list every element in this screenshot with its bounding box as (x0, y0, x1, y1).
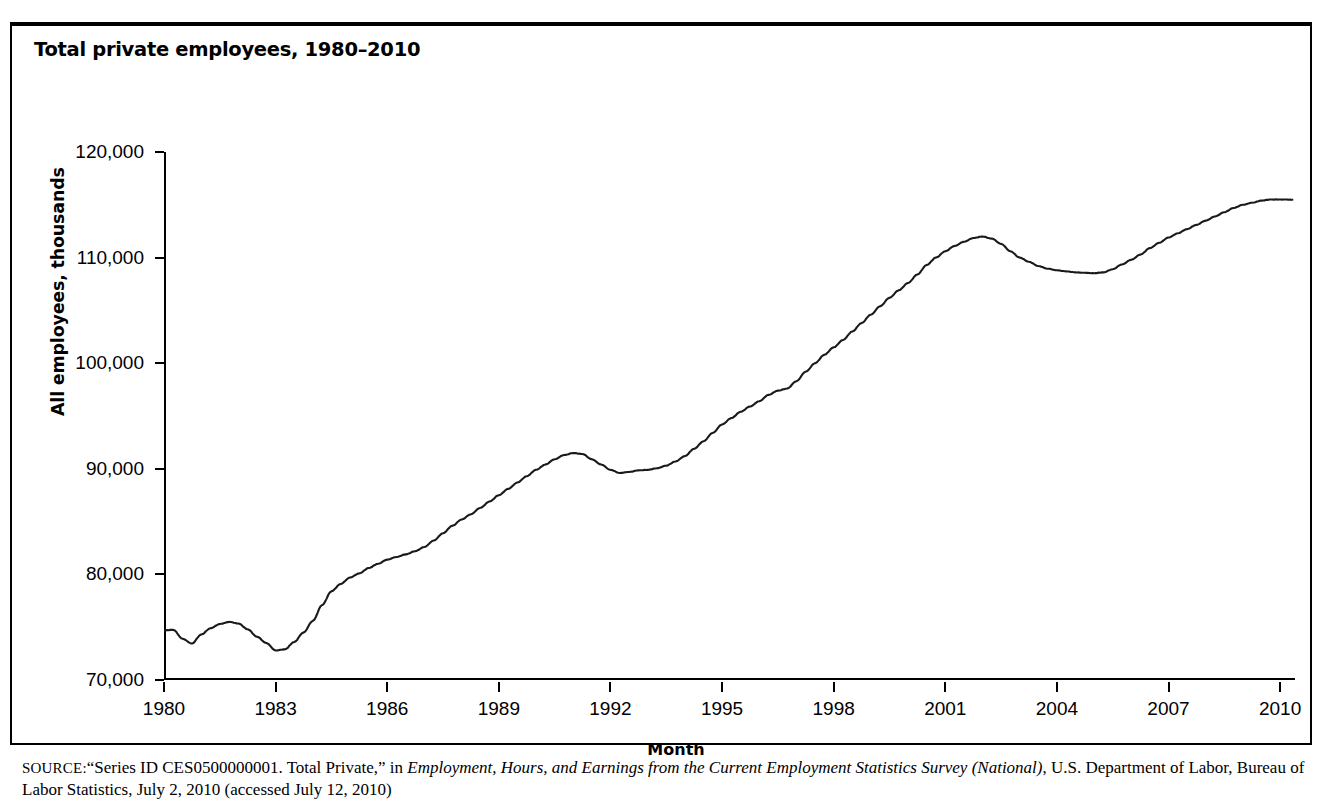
x-tick-label: 1995 (701, 698, 743, 720)
series-line-total-private (164, 199, 1292, 650)
x-tick-mark (1056, 682, 1058, 692)
x-tick-mark (1168, 682, 1170, 692)
y-tick-label: 120,000 (75, 141, 144, 163)
x-tick-mark (609, 682, 611, 692)
x-tick-mark (944, 682, 946, 692)
x-tick-mark (498, 682, 500, 692)
y-tick-mark (155, 151, 164, 153)
chart-title: Total private employees, 1980–2010 (34, 38, 420, 61)
source-label: SOURCE: (22, 760, 87, 776)
x-tick-mark (275, 682, 277, 692)
data-line-plot (164, 152, 1295, 680)
source-publication-title: Employment, Hours, and Earnings from the… (407, 758, 1042, 777)
x-tick-mark (833, 682, 835, 692)
x-tick-label: 1992 (589, 698, 631, 720)
x-tick-label: 1989 (478, 698, 520, 720)
y-tick-mark (155, 573, 164, 575)
x-tick-label: 2007 (1147, 698, 1189, 720)
x-tick-mark (386, 682, 388, 692)
x-tick-label: 1983 (254, 698, 296, 720)
y-tick-label: 90,000 (86, 458, 144, 480)
y-tick-mark (155, 468, 164, 470)
x-tick-label: 1986 (366, 698, 408, 720)
x-tick-label: 1980 (143, 698, 185, 720)
x-tick-label: 1998 (813, 698, 855, 720)
x-tick-label: 2004 (1036, 698, 1078, 720)
source-text-a: “Series ID CES0500000001. Total Private,… (87, 758, 408, 777)
y-tick-mark (155, 679, 164, 681)
y-tick-label: 110,000 (77, 247, 144, 269)
y-tick-mark (155, 362, 164, 364)
x-tick-mark (721, 682, 723, 692)
source-note: SOURCE:“Series ID CES0500000001. Total P… (22, 757, 1314, 800)
x-tick-mark (163, 682, 165, 692)
x-tick-mark (1279, 682, 1281, 692)
y-tick-mark (155, 257, 164, 259)
x-tick-label: 2001 (924, 698, 966, 720)
chart-frame: Total private employees, 1980–2010 70,00… (10, 22, 1312, 745)
x-tick-label: 2010 (1259, 698, 1301, 720)
y-axis-title: All employees, thousands (48, 167, 68, 416)
y-tick-label: 80,000 (86, 563, 144, 585)
y-tick-label: 100,000 (75, 352, 144, 374)
y-tick-label: 70,000 (86, 669, 144, 691)
source-text-b: , U.S. (1043, 758, 1082, 777)
